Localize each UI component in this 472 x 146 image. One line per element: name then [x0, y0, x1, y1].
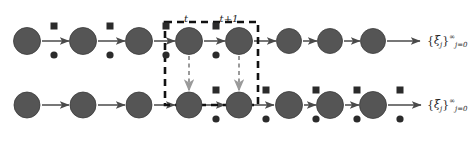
- square-marker-1-4: [263, 87, 270, 94]
- infinity-superscript-bottom: ∞: [449, 97, 455, 105]
- state-node-0-4: [226, 28, 253, 55]
- state-nodes: [14, 28, 387, 119]
- square-marker-1-3: [213, 87, 220, 94]
- square-marker-1-5: [313, 87, 320, 94]
- state-node-0-3: [176, 28, 203, 55]
- lower-limit-bottom: j=0: [455, 105, 468, 113]
- dot-marker-1-3: [212, 115, 219, 122]
- time-label-t: t: [184, 14, 188, 24]
- dot-marker-1-7: [396, 115, 403, 122]
- state-node-1-2: [126, 92, 152, 118]
- vertical-coupling-arrows: [189, 56, 239, 90]
- state-node-0-7: [361, 29, 386, 54]
- dot-marker-1-5: [312, 115, 319, 122]
- time-label-t-plus-1: t+1: [220, 14, 239, 24]
- state-node-0-0: [14, 28, 41, 55]
- state-node-1-7: [360, 92, 387, 119]
- dot-marker-1-6: [353, 115, 360, 122]
- dot-marker-0-3: [212, 51, 219, 58]
- sequence-label-bottom: {ξj}∞j=0: [427, 98, 468, 113]
- square-marker-0-3: [213, 23, 220, 30]
- lower-limit-top: j=0: [455, 41, 468, 49]
- dot-marker-0-2: [162, 51, 169, 58]
- square-marker-0-0: [51, 23, 58, 30]
- dot-marker-1-4: [262, 115, 269, 122]
- infinity-superscript-top: ∞: [449, 33, 455, 41]
- state-node-1-6: [317, 92, 344, 119]
- state-node-1-1: [70, 92, 96, 118]
- square-marker-1-6: [354, 87, 361, 94]
- state-node-0-5: [277, 29, 302, 54]
- dot-marker-0-1: [106, 51, 113, 58]
- sequence-label-top: {ξj}∞j=0: [427, 34, 468, 49]
- square-marker-0-1: [107, 23, 114, 30]
- state-node-0-6: [318, 29, 343, 54]
- brace-open-top: {: [427, 34, 434, 47]
- state-node-1-5: [276, 92, 303, 119]
- state-node-1-4: [226, 92, 252, 118]
- brace-open-bottom: {: [427, 98, 434, 111]
- figure-canvas: t t+1 {ξj}∞j=0 {ξj}∞j=0: [0, 0, 472, 146]
- dot-marker-0-0: [50, 51, 57, 58]
- square-marker-1-7: [397, 87, 404, 94]
- state-node-0-2: [126, 28, 153, 55]
- square-marker-0-2: [163, 23, 170, 30]
- state-node-0-1: [70, 28, 97, 55]
- state-node-1-0: [14, 92, 40, 118]
- state-node-1-3: [176, 92, 202, 118]
